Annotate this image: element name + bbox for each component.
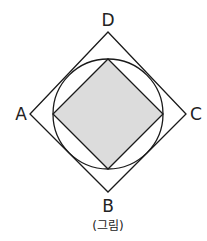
- vertex-label-a: A: [15, 104, 27, 124]
- geometry-figure: D A C B (그림): [0, 0, 207, 241]
- vertex-label-c: C: [190, 104, 202, 124]
- vertex-label-b: B: [102, 196, 114, 216]
- figure-caption: (그림): [92, 219, 123, 233]
- vertex-label-d: D: [101, 10, 114, 30]
